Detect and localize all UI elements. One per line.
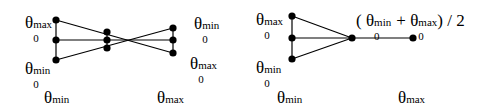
node-dot — [52, 16, 59, 23]
axis-label-theta1-min: θmin1 — [44, 89, 52, 106]
label-theta0-max-left: θmax0 — [256, 11, 264, 28]
node-dot — [103, 44, 110, 51]
label-theta0-min-top-right: θmin0 — [194, 15, 202, 32]
label-theta0-min-bottom-left: θmin0 — [25, 60, 33, 77]
label-theta0-max-bottom-right: θmax0 — [190, 55, 198, 72]
node-dot — [288, 55, 295, 62]
formula-open-paren: ( — [356, 11, 362, 30]
node-dot — [288, 34, 295, 41]
formula-midpoint-label: ( θmin0 + θmax0) / 2 — [356, 12, 465, 29]
node-dot — [169, 24, 176, 31]
label-theta0-min-left: θmin0 — [256, 59, 264, 76]
node-dot — [409, 34, 416, 41]
node-dot — [348, 34, 355, 41]
axis-label-theta1-min: θmin1 — [277, 89, 285, 106]
node-dot — [169, 36, 176, 43]
axis-label-theta1-max: θmax1 — [157, 89, 165, 106]
formula-plus: + — [396, 11, 406, 30]
node-dot — [169, 49, 176, 56]
formula-close: ) / 2 — [437, 11, 464, 30]
left-diagram-edges — [56, 20, 173, 60]
node-dot — [288, 12, 295, 19]
node-dot — [103, 28, 110, 35]
node-dot — [52, 36, 59, 43]
node-dot — [52, 56, 59, 63]
node-dot — [103, 36, 110, 43]
axis-label-theta1-max: θmax1 — [398, 89, 406, 106]
label-theta0-max-top-left: θmax0 — [25, 14, 33, 31]
